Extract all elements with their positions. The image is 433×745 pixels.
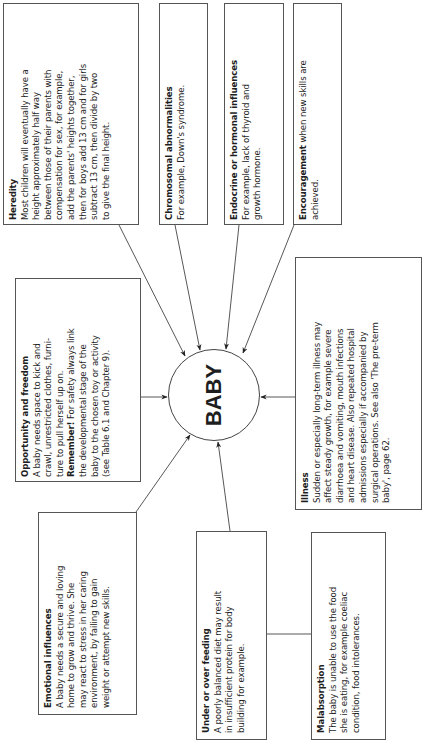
malabsorption-line: she is eating, for example coeliac xyxy=(339,539,351,733)
emotional-title: Emotional influences xyxy=(43,519,55,708)
remember-line: the developmental stage of the xyxy=(78,285,90,477)
emotional-line: environment, by failing to gain xyxy=(89,519,101,708)
heredity-line: add the parents' heights together, xyxy=(66,10,78,220)
emotional-line: A baby needs a secure and loving xyxy=(55,519,67,708)
arrow-feeding xyxy=(218,442,230,531)
baby-label: BABY xyxy=(201,364,227,426)
heredity-line: subtract 13 cm, then divide by two xyxy=(89,10,101,220)
arrow-emotional xyxy=(136,435,190,512)
illness-line: diarrhoea and vomiting, mouth infections xyxy=(335,264,347,503)
opportunity-line: ture to pull herself up on. xyxy=(55,285,67,477)
box-illness: Illness Sudden or especially long-term i… xyxy=(295,257,422,510)
emotional-line: weight or attempt new skills. xyxy=(101,519,113,708)
illness-line: and heart disease. Also repeated hospita… xyxy=(346,264,358,503)
feeding-title: Under or over feeding xyxy=(201,538,213,733)
baby-center-node: BABY xyxy=(168,349,260,441)
opportunity-title: Opportunity and freedom xyxy=(20,285,32,477)
endocrine-line: growth hormone. xyxy=(252,10,264,220)
heredity-line: height approximately half way xyxy=(31,10,43,220)
heredity-line: compensation for sex, for example, xyxy=(54,10,66,220)
illness-line: surgical operations. See also 'The pre-t… xyxy=(370,264,382,503)
heredity-line: to give the final height. xyxy=(101,10,113,220)
box-encouragement: Encouragement when new skills are achiev… xyxy=(293,3,342,225)
malabsorption-title: Malabsorption xyxy=(316,539,328,733)
box-opportunity: Opportunity and freedom A baby needs spa… xyxy=(15,278,141,482)
arrow-encouragement xyxy=(243,225,294,353)
remember-inline: For safety always link xyxy=(66,328,76,421)
box-emotional: Emotional influences A baby needs a secu… xyxy=(38,512,137,715)
box-malabsorption: Malabsorption The baby is unable to use … xyxy=(311,532,386,740)
illness-line: affect steady growth, for example severe xyxy=(323,264,335,503)
opportunity-line: A baby needs space to kick and xyxy=(32,285,44,477)
arrow-chromosomal xyxy=(175,225,200,350)
box-endocrine: Endocrine or hormonal influences For exa… xyxy=(224,3,284,225)
emotional-line: home to grow and thrive. She xyxy=(66,519,78,708)
endocrine-line: For example, lack of thyroid and xyxy=(241,10,253,220)
remember-label: Remember! xyxy=(66,422,76,477)
opportunity-line: crawl, unrestricted clothes, furni- xyxy=(43,285,55,477)
illness-line: baby', page 62. xyxy=(381,264,393,503)
remember-line: (see Table 6.1 and Chapter 9). xyxy=(101,285,113,477)
malabsorption-line: condition, food intolerances. xyxy=(351,539,363,733)
heredity-title: Heredity xyxy=(8,10,20,220)
feeding-line: building for example. xyxy=(236,538,248,733)
box-feeding: Under or over feeding A poorly balanced … xyxy=(196,531,267,740)
illness-line: admissions especially if accompanied by xyxy=(358,264,370,503)
emotional-line: may react to stress in her caring xyxy=(78,519,90,708)
encouragement-body: when new skills are xyxy=(298,60,308,145)
malabsorption-line: The baby is unable to use the food xyxy=(328,539,340,733)
encouragement-line2: achieved. xyxy=(310,10,322,220)
box-chromosomal: Chromosomal abnormalities For example, D… xyxy=(159,3,208,225)
box-heredity: Heredity Most children will eventually h… xyxy=(3,3,139,225)
arrow-endocrine xyxy=(226,225,239,349)
feeding-line: in insufficient protein for body xyxy=(224,538,236,733)
feeding-line: A poorly balanced diet may result xyxy=(213,538,225,733)
endocrine-title: Endocrine or hormonal influences xyxy=(229,10,241,220)
chromosomal-body: For example, Down's syndrome. xyxy=(176,10,188,220)
illness-title: Illness xyxy=(300,264,312,503)
heredity-line: Most children will eventually have a xyxy=(20,10,32,220)
remember-line: baby to the chosen toy or activity xyxy=(90,285,102,477)
heredity-line: between those of their parents with xyxy=(43,10,55,220)
encouragement-title: Encouragement xyxy=(298,145,308,220)
chromosomal-title: Chromosomal abnormalities xyxy=(164,10,176,220)
illness-line: Sudden or especially long-term illness m… xyxy=(312,264,324,503)
heredity-line: then for boys add 13 cm and for girls xyxy=(78,10,90,220)
